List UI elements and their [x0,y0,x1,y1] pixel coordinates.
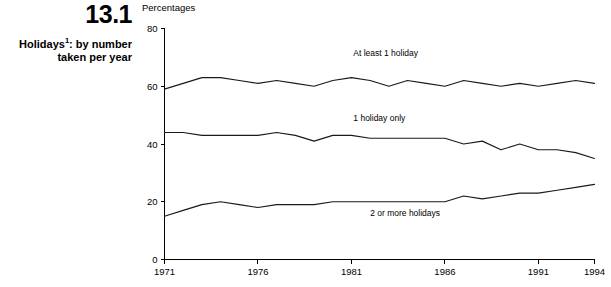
x-tick-label: 1991 [528,266,549,277]
y-axis-tick-group: 020406080 [147,23,165,265]
y-tick-label: 40 [147,139,158,150]
x-tick-label: 1971 [154,266,175,277]
y-tick-label: 60 [147,81,158,92]
line-chart-plot: 020406080 197119761981198619911994 At le… [0,0,611,287]
figure-container: 13.1 Holidays1: by number taken per year… [0,0,611,287]
x-tick-label: 1981 [341,266,362,277]
x-tick-label: 1976 [247,266,268,277]
data-series-group [165,78,595,217]
y-tick-label: 0 [152,254,157,265]
y-tick-label: 20 [147,196,158,207]
series-line-1-holiday-only [165,132,595,158]
series-label-group: At least 1 holiday1 holiday only2 or mor… [353,48,440,218]
series-label-1-holiday-only: 1 holiday only [353,113,406,123]
series-label-at-least-1-holiday: At least 1 holiday [353,48,418,58]
x-axis-tick-group: 197119761981198619911994 [154,260,605,277]
y-tick-label: 80 [147,23,158,34]
series-line-at-least-1-holiday [165,78,595,90]
x-tick-label: 1986 [434,266,455,277]
x-tick-label: 1994 [584,266,605,277]
series-label-2-or-more-holidays: 2 or more holidays [370,208,440,218]
